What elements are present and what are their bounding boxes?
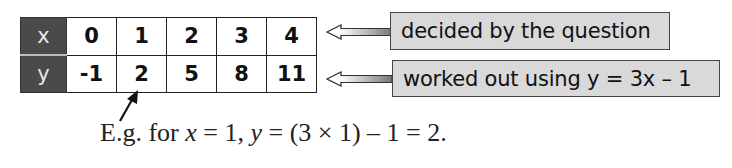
arrow-left-icon <box>326 71 394 87</box>
worked-example: E.g. for x = 1, y = (3 × 1) – 1 = 2. <box>100 118 447 148</box>
table-cell: 2 <box>167 18 217 56</box>
table-cell: 1 <box>117 18 167 56</box>
annotation-text: worked out using y = 3x – 1 <box>403 67 691 91</box>
xy-value-table: x 0 1 2 3 4 y -1 2 5 8 11 <box>20 17 317 93</box>
example-text: = (3 × 1) – 1 = 2. <box>262 118 447 147</box>
y-row-annotation: worked out using y = 3x – 1 <box>392 60 720 97</box>
table-cell: 11 <box>267 55 317 93</box>
x-row-annotation: decided by the question <box>390 12 670 50</box>
table-cell: 5 <box>167 55 217 93</box>
table-row-y: y -1 2 5 8 11 <box>21 55 317 93</box>
table-cell: 8 <box>217 55 267 93</box>
row-header-x: x <box>21 18 67 56</box>
example-var-x: x <box>185 118 197 147</box>
table-cell: -1 <box>67 55 117 93</box>
table-row-x: x 0 1 2 3 4 <box>21 18 317 56</box>
row-header-y: y <box>21 55 67 93</box>
arrow-left-icon <box>326 24 394 40</box>
table-cell: 3 <box>217 18 267 56</box>
example-text: = 1, <box>197 118 251 147</box>
table-cell: 0 <box>67 18 117 56</box>
table-cell: 4 <box>267 18 317 56</box>
annotation-text: decided by the question <box>401 19 651 43</box>
table-cell: 2 <box>117 55 167 93</box>
example-var-y: y <box>250 118 262 147</box>
example-text: E.g. for <box>100 118 185 147</box>
